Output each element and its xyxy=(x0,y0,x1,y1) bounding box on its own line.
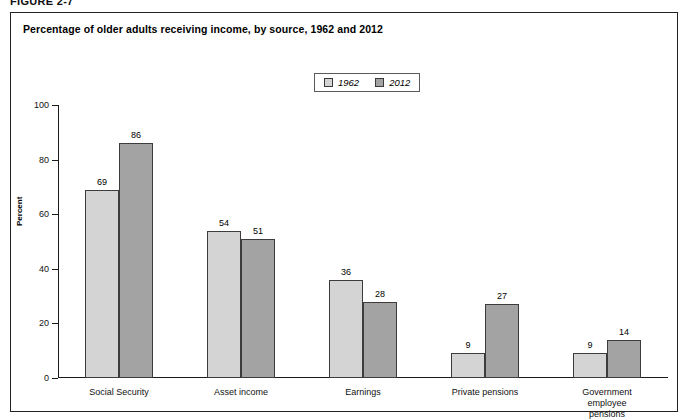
bar xyxy=(451,353,485,378)
y-tick-label: 80 xyxy=(39,155,49,165)
y-tick-label: 100 xyxy=(34,100,49,110)
bar-value-label: 9 xyxy=(587,340,592,350)
category-label: Social Security xyxy=(89,387,149,398)
bar xyxy=(241,239,275,378)
bar xyxy=(485,304,519,378)
bar-value-label: 51 xyxy=(253,226,263,236)
category-label: Earnings xyxy=(345,387,381,398)
figure-box: Percentage of older adults receiving inc… xyxy=(10,12,678,412)
bar-value-label: 27 xyxy=(497,291,507,301)
y-tick-label: 60 xyxy=(39,209,49,219)
y-tick-mark xyxy=(52,378,58,379)
bar-value-label: 54 xyxy=(219,218,229,228)
bar-value-label: 86 xyxy=(131,130,141,140)
bar-value-label: 14 xyxy=(619,327,629,337)
bar xyxy=(85,190,119,378)
category-label: Government employee pensions xyxy=(571,387,643,420)
figure-label: FIGURE 2-7 xyxy=(10,0,74,7)
y-tick-label: 20 xyxy=(39,318,49,328)
bar-value-label: 9 xyxy=(465,340,470,350)
category-label: Asset income xyxy=(214,387,268,398)
bar xyxy=(573,353,607,378)
bar-value-label: 36 xyxy=(341,267,351,277)
bar xyxy=(363,302,397,378)
bar xyxy=(607,340,641,378)
category-label: Private pensions xyxy=(452,387,519,398)
bar xyxy=(329,280,363,378)
y-axis-title: Percent xyxy=(15,197,24,226)
bar-value-label: 69 xyxy=(97,177,107,187)
bar xyxy=(119,143,153,378)
bar xyxy=(207,231,241,378)
bars-layer: 698654513628927914 xyxy=(58,105,668,378)
y-tick-label: 0 xyxy=(44,373,49,383)
bar-value-label: 28 xyxy=(375,289,385,299)
y-tick-label: 40 xyxy=(39,264,49,274)
plot-area: Percent 020406080100 698654513628927914 … xyxy=(11,13,679,413)
